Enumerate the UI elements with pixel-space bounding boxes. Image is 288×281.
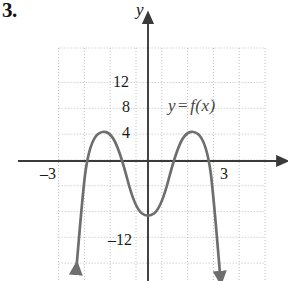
function-label-equals: = bbox=[176, 96, 190, 115]
x-tick-label-minus-3: ‒3 bbox=[40, 166, 56, 182]
x-tick-label-3: 3 bbox=[220, 166, 228, 182]
y-tick-label-12: 12 bbox=[113, 74, 129, 90]
y-tick-label-4: 4 bbox=[122, 125, 130, 141]
y-axis-name: y bbox=[136, 1, 144, 18]
y-tick-label-8: 8 bbox=[122, 99, 130, 115]
function-label-lhs: y bbox=[168, 96, 176, 115]
y-tick-label-minus-12: ‒12 bbox=[108, 232, 132, 248]
function-equation-label: y=f(x) bbox=[168, 96, 216, 116]
graph-figure: 3. bbox=[0, 0, 288, 281]
coordinate-plane bbox=[0, 0, 288, 281]
grid-lines bbox=[59, 48, 265, 281]
function-label-rhs: f(x) bbox=[190, 96, 216, 115]
